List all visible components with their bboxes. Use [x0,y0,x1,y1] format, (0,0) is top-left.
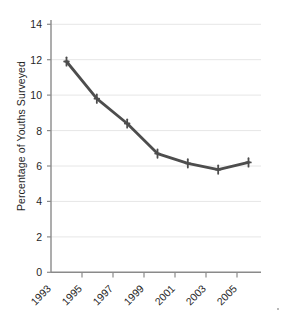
data-point-2003 [216,165,221,173]
x-tick-marks [82,272,237,277]
y-tick-label-6: 6 [20,161,42,171]
plot-area [0,0,285,320]
y-tick-label-10: 10 [20,90,42,100]
gridlines [51,24,261,237]
y-tick-label-2: 2 [20,232,42,242]
data-point-2005 [246,158,251,166]
y-tick-label-12: 12 [20,55,42,65]
y-tick-label-8: 8 [20,126,42,136]
line-chart: Percentage of Youths Surveyed [0,0,285,320]
data-markers [64,57,251,173]
y-tick-label-14: 14 [20,19,42,29]
corner-speck [277,308,279,310]
y-tick-label-4: 4 [20,196,42,206]
y-tick-label-0: 0 [20,267,42,277]
